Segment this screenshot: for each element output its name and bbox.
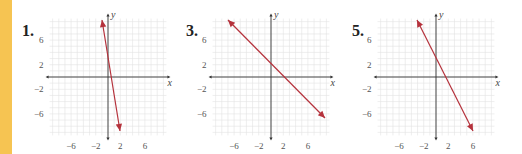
x-tick-label: −6 bbox=[66, 141, 76, 151]
x-axis-label: x bbox=[329, 77, 335, 88]
graph-3: xy−6−22662−2−6 bbox=[197, 9, 335, 152]
y-tick-label: −2 bbox=[362, 84, 372, 94]
y-tick-label: 6 bbox=[39, 35, 44, 45]
x-axis-left-arrow-icon bbox=[374, 75, 377, 78]
y-axis-down-arrow-icon bbox=[434, 137, 437, 140]
x-tick-label: 6 bbox=[471, 141, 476, 151]
x-axis-label: x bbox=[494, 77, 500, 88]
graph-5: xy−6−22662−2−6 bbox=[362, 9, 500, 152]
y-axis-label: y bbox=[110, 9, 116, 20]
y-tick-label: 2 bbox=[367, 60, 372, 70]
x-tick-label: 2 bbox=[281, 141, 286, 151]
plotted-line bbox=[228, 20, 325, 118]
line-arrow-end-icon bbox=[116, 124, 122, 131]
y-axis-down-arrow-icon bbox=[269, 137, 272, 140]
y-axis-label: y bbox=[273, 9, 279, 20]
y-axis-up-arrow-icon bbox=[269, 14, 272, 17]
y-tick-label: −6 bbox=[197, 109, 207, 119]
x-tick-label: 6 bbox=[143, 141, 148, 151]
x-tick-label: −2 bbox=[254, 141, 264, 151]
y-tick-label: 2 bbox=[39, 60, 44, 70]
x-tick-label: −2 bbox=[419, 141, 429, 151]
y-tick-label: 6 bbox=[367, 35, 372, 45]
y-tick-label: −2 bbox=[34, 84, 44, 94]
x-axis-left-arrow-icon bbox=[46, 75, 49, 78]
y-tick-label: −6 bbox=[34, 109, 44, 119]
plotted-line bbox=[102, 20, 120, 131]
y-axis-up-arrow-icon bbox=[434, 14, 437, 17]
x-tick-label: 2 bbox=[118, 141, 123, 151]
y-axis-label: y bbox=[438, 9, 444, 20]
x-tick-label: 6 bbox=[306, 141, 311, 151]
x-tick-label: −6 bbox=[394, 141, 404, 151]
y-axis-up-arrow-icon bbox=[106, 14, 109, 17]
line-arrow-start-icon bbox=[100, 20, 106, 27]
y-tick-label: −2 bbox=[197, 84, 207, 94]
y-axis-down-arrow-icon bbox=[106, 137, 109, 140]
y-tick-label: 2 bbox=[202, 60, 207, 70]
y-tick-label: −6 bbox=[362, 109, 372, 119]
plotted-line bbox=[417, 20, 473, 131]
x-tick-label: −2 bbox=[91, 141, 101, 151]
graphs-canvas: xy−6−22662−2−6xy−6−22662−2−6xy−6−22662−2… bbox=[0, 0, 522, 154]
x-tick-label: 2 bbox=[446, 141, 451, 151]
x-tick-label: −6 bbox=[229, 141, 239, 151]
x-axis-left-arrow-icon bbox=[209, 75, 212, 78]
x-axis-label: x bbox=[166, 77, 172, 88]
graph-1: xy−6−22662−2−6 bbox=[34, 9, 172, 152]
y-tick-label: 6 bbox=[202, 35, 207, 45]
